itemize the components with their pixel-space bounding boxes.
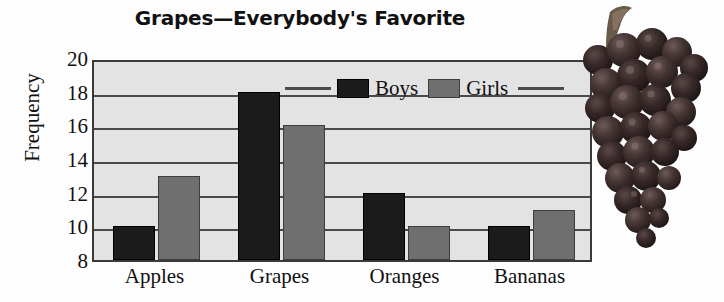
- y-axis-tick-labels: 8101214161820: [44, 0, 88, 302]
- legend-label-boys: Boys: [375, 76, 418, 101]
- grape-cluster-photo: [576, 2, 724, 264]
- bar-grapes-girls: [283, 125, 325, 260]
- x-axis-label-apples: Apples: [92, 264, 217, 289]
- gridline-16: [94, 128, 590, 130]
- legend-label-girls: Girls: [466, 76, 508, 101]
- y-axis-title: Frequency: [20, 38, 45, 198]
- bar-chart-figure: Grapes—Everybody's Favorite Frequency 81…: [0, 0, 724, 302]
- legend-leader-line-right: [518, 87, 564, 90]
- y-axis-tick-20: 20: [46, 49, 88, 70]
- y-axis-tick-8: 8: [46, 251, 88, 272]
- bar-oranges-girls: [408, 226, 450, 260]
- chart-legend: Boys Girls: [285, 76, 564, 101]
- y-axis-tick-14: 14: [46, 150, 88, 171]
- gridline-14: [94, 162, 590, 164]
- y-axis-tick-18: 18: [46, 83, 88, 104]
- x-axis-label-oranges: Oranges: [342, 264, 467, 289]
- legend-swatch-boys: [337, 79, 369, 98]
- bar-oranges-boys: [363, 193, 405, 260]
- bar-bananas-girls: [533, 210, 575, 261]
- bar-bananas-boys: [488, 226, 530, 260]
- legend-swatch-girls: [428, 79, 460, 98]
- bar-grapes-boys: [238, 92, 280, 260]
- y-axis-tick-16: 16: [46, 116, 88, 137]
- chart-title: Grapes—Everybody's Favorite: [0, 6, 600, 30]
- y-axis-tick-10: 10: [46, 217, 88, 238]
- x-axis-label-bananas: Bananas: [467, 264, 592, 289]
- bar-apples-boys: [113, 226, 155, 260]
- y-axis-tick-12: 12: [46, 184, 88, 205]
- bar-apples-girls: [158, 176, 200, 260]
- x-axis-tick-labels: ApplesGrapesOrangesBananas: [92, 264, 592, 298]
- x-axis-label-grapes: Grapes: [217, 264, 342, 289]
- legend-leader-line-left: [285, 87, 331, 90]
